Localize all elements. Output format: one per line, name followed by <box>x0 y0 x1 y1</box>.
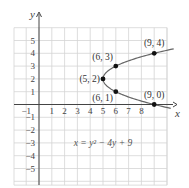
y-tick-label: 5 <box>31 36 36 46</box>
x-tick-label: 8 <box>139 106 144 116</box>
data-point <box>152 102 157 107</box>
y-tick-label: 4 <box>31 48 36 58</box>
data-point <box>101 77 106 82</box>
y-axis-label: y <box>29 8 35 20</box>
x-tick-label: 6 <box>114 106 119 116</box>
y-tick-label: −4 <box>25 151 35 161</box>
x-tick-label: 2 <box>62 106 67 116</box>
equation-label: x = y² − 4y + 9 <box>73 138 133 148</box>
x-tick-label: 5 <box>101 106 106 116</box>
data-point <box>152 51 157 56</box>
y-tick-label: −2 <box>25 125 35 135</box>
y-tick-label: 2 <box>31 74 36 84</box>
point-label: (5, 2) <box>79 74 100 85</box>
x-tick-label: 3 <box>75 106 80 116</box>
y-tick-label: −5 <box>25 164 35 174</box>
x-tick-label: 1 <box>50 106 55 116</box>
point-label: (6, 3) <box>92 52 113 63</box>
x-axis-label: x <box>174 107 180 119</box>
data-point <box>113 89 118 94</box>
point-label: (9, 0) <box>144 90 165 101</box>
point-label: (9, 4) <box>144 38 165 49</box>
y-tick-label: 3 <box>31 61 36 71</box>
x-tick-label: 4 <box>88 106 93 116</box>
parabola-graph: xy−11234567854321−1−2−3−4−5(5, 2)(6, 3)(… <box>0 0 189 188</box>
x-tick-label: 7 <box>126 106 131 116</box>
data-point <box>113 64 118 69</box>
y-tick-label: 1 <box>31 87 36 97</box>
y-tick-label: −1 <box>25 112 35 122</box>
point-label: (6, 1) <box>92 93 113 104</box>
y-tick-label: −3 <box>25 138 35 148</box>
